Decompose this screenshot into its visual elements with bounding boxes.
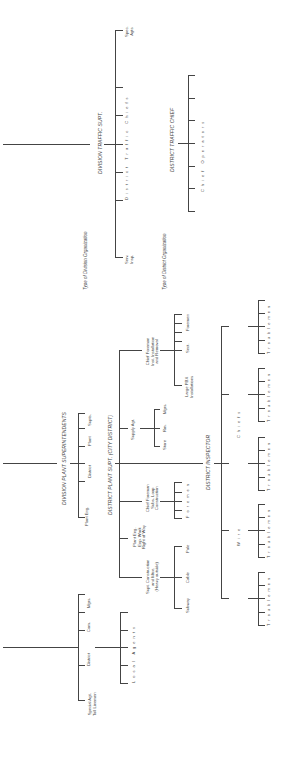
foremen-label: Foremen <box>186 481 191 518</box>
division-plant-title: DIVISION PLANT SUPERINTENDENTS <box>62 412 67 505</box>
supply-agt-label: Supply Agt. <box>131 419 136 440</box>
tick <box>174 482 182 483</box>
branch <box>160 577 174 578</box>
troublemen-label: Troublemen <box>267 507 272 558</box>
branch <box>140 428 154 429</box>
tick <box>78 700 85 701</box>
branch <box>119 577 142 578</box>
tick <box>78 446 85 447</box>
division-caption: Type of Division Organization <box>84 232 89 290</box>
tick <box>154 409 160 410</box>
tick <box>174 577 182 578</box>
troublemen-label: Troublemen <box>267 371 272 422</box>
district-inspector-title: DISTRICT INSPECTOR <box>206 435 211 490</box>
chief-operators-label: Chief Operators <box>201 119 206 192</box>
cable-label: Cable <box>186 572 191 583</box>
tick <box>174 314 182 315</box>
traffic-div-stub <box>104 144 115 145</box>
district-caption: Type of District Organization <box>163 234 168 290</box>
large-pbx-label: Large PBX Installations <box>185 376 194 398</box>
district-label: District <box>88 465 93 478</box>
tick <box>78 463 85 464</box>
com-label: Com. <box>87 622 92 632</box>
traffic-feed-line <box>3 144 90 145</box>
tick <box>78 428 85 429</box>
tick <box>188 188 195 189</box>
tick <box>174 518 182 519</box>
tick <box>174 350 182 351</box>
district-traffic-title: DISTRICT TRAFFIC CHIEF <box>170 108 175 172</box>
tick <box>221 598 229 599</box>
tick <box>188 211 195 212</box>
division-traffic-title: DIVISION TRAFFIC SUPT. <box>98 112 103 174</box>
tick <box>78 413 85 414</box>
supts-label: Supts. <box>88 414 93 426</box>
troublemen-label: Troublemen <box>267 575 272 626</box>
plant-eng-label: Plant Eng. <box>85 507 90 526</box>
chiefs-label: Chiefs <box>237 409 242 438</box>
district-label: District <box>87 653 92 666</box>
tick <box>115 115 123 116</box>
pole-label: Pole <box>186 545 191 553</box>
local-agents-label: Local Agents <box>132 624 137 683</box>
tick <box>174 323 182 324</box>
tick <box>188 120 195 121</box>
chief-foreman-subs-label: Chief Foreman Subs. Loop Construction <box>146 484 160 512</box>
district-plant-title: DISTRICT PLANT SUPT. (CITY DISTRICT) <box>108 415 113 515</box>
supt-construction-label: Supt. Construction and Mtce. (Heavy outs… <box>146 560 160 594</box>
tick <box>120 630 128 631</box>
tick <box>78 630 85 631</box>
tick <box>188 75 195 76</box>
plant-eng-exp-label: Plant Eng. Exp. Work Right of Way <box>133 525 147 549</box>
tick <box>174 501 182 502</box>
dist-plant-line <box>115 463 203 464</box>
tick <box>115 30 123 31</box>
commercial-feed-line <box>3 647 78 648</box>
troublemen-label: Troublemen <box>267 440 272 491</box>
branch <box>119 428 128 429</box>
tick <box>221 530 229 531</box>
tick <box>174 385 182 386</box>
tick <box>221 463 229 464</box>
branch <box>119 501 142 502</box>
tick <box>221 326 229 327</box>
tick <box>115 257 123 258</box>
branch <box>119 538 128 539</box>
store-label: Store <box>163 440 168 450</box>
tick <box>174 492 182 493</box>
dist-plant-bar <box>119 350 120 577</box>
tick <box>120 665 128 666</box>
inspector-stub <box>214 463 221 464</box>
tick <box>115 200 123 201</box>
tick <box>188 98 195 99</box>
subway-label: Subway <box>186 598 191 613</box>
tick <box>115 172 123 173</box>
tick <box>115 87 123 88</box>
mgrs-label: Mgrs. <box>87 598 92 608</box>
district-traffic-stub <box>178 143 188 144</box>
tick <box>174 546 182 547</box>
tick <box>174 608 182 609</box>
chief-foreman-inst-label: Chief Foreman Inst. Installation and Rem… <box>146 337 160 366</box>
tick <box>154 446 160 447</box>
spec-agts-label: Spec. Agts <box>125 26 134 37</box>
tick <box>120 647 128 648</box>
mgrs-label: Mgrs. <box>163 404 168 414</box>
special-agt-label: Special Agt. Toll Linemen <box>88 692 97 716</box>
tick <box>174 341 182 342</box>
plant-div-stub <box>70 463 78 464</box>
plant-label: Plant <box>88 436 93 446</box>
tick <box>174 332 182 333</box>
plant-feed-line <box>3 463 57 464</box>
tick <box>78 481 85 482</box>
commercial-div-bar <box>78 594 79 700</box>
branch <box>119 350 142 351</box>
tick <box>115 144 123 145</box>
subs-bar <box>174 482 175 518</box>
troublemen-label: Troublemen <box>267 303 272 354</box>
tick <box>188 143 195 144</box>
inspector-bar <box>221 326 222 598</box>
sect-label: Sect. <box>186 343 191 353</box>
tick <box>154 428 160 429</box>
tick <box>221 394 229 395</box>
